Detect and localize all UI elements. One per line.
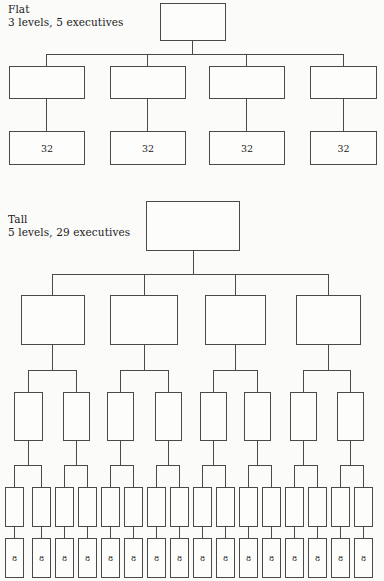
tall-connector-vertical-35 xyxy=(225,465,226,487)
flat-caption: Flat3 levels, 5 executives xyxy=(8,3,123,29)
tall-connector-vertical-25 xyxy=(350,441,351,465)
tall-connector-horizontal-7 xyxy=(64,465,87,466)
tall-connector-vertical-43 xyxy=(41,527,42,538)
flat-caption-title: Flat xyxy=(8,3,123,16)
tall-connector-vertical-27 xyxy=(41,465,42,487)
tall-level1-node1 xyxy=(146,201,240,251)
tall-connector-vertical-32 xyxy=(156,465,157,487)
tall-level3-node4 xyxy=(155,392,182,441)
tall-level4-node16 xyxy=(354,487,373,527)
tall-connector-horizontal-10 xyxy=(202,465,225,466)
tall-level5-node14: 8 xyxy=(308,538,327,578)
tall-level4-node10 xyxy=(216,487,235,527)
tall-connector-vertical-13 xyxy=(168,370,169,392)
tall-connector-vertical-10 xyxy=(28,370,29,392)
flat-connector-vertical-8 xyxy=(246,99,247,131)
flat-connector-vertical-5 xyxy=(343,54,344,66)
tall-level4-node7 xyxy=(147,487,166,527)
tall-connector-vertical-37 xyxy=(271,465,272,487)
tall-level3-node7 xyxy=(290,392,317,441)
tall-connector-vertical-36 xyxy=(248,465,249,487)
tall-connector-vertical-44 xyxy=(64,527,65,538)
tall-connector-vertical-1 xyxy=(193,251,194,274)
flat-level2-node3 xyxy=(209,66,285,99)
flat-connector-vertical-9 xyxy=(343,99,344,131)
tall-caption-title: Tall xyxy=(8,213,130,226)
tall-caption-detail: 5 levels, 29 executives xyxy=(8,226,130,239)
flat-connector-vertical-4 xyxy=(246,54,247,66)
flat-connector-vertical-7 xyxy=(147,99,148,131)
tall-connector-horizontal-8 xyxy=(110,465,133,466)
tall-level5-node12: 8 xyxy=(262,538,281,578)
tall-level5-node1: 8 xyxy=(5,538,24,578)
tall-level5-node15: 8 xyxy=(331,538,350,578)
tall-connector-vertical-16 xyxy=(303,370,304,392)
tall-connector-vertical-28 xyxy=(64,465,65,487)
tall-connector-vertical-11 xyxy=(76,370,77,392)
flat-connector-horizontal-1 xyxy=(46,54,343,55)
flat-caption-detail: 3 levels, 5 executives xyxy=(8,16,123,29)
flat-level3-node4: 32 xyxy=(310,131,377,165)
tall-connector-vertical-50 xyxy=(202,527,203,538)
flat-connector-vertical-2 xyxy=(46,54,47,66)
tall-level4-node13 xyxy=(285,487,304,527)
tall-level5-node2: 8 xyxy=(32,538,51,578)
tall-level4-node8 xyxy=(170,487,189,527)
tall-level3-node2 xyxy=(63,392,90,441)
tall-connector-horizontal-12 xyxy=(294,465,317,466)
tall-connector-vertical-31 xyxy=(133,465,134,487)
tall-connector-vertical-15 xyxy=(257,370,258,392)
flat-level2-node2 xyxy=(110,66,186,99)
tall-connector-vertical-22 xyxy=(213,441,214,465)
tall-connector-vertical-4 xyxy=(235,274,236,295)
tall-connector-vertical-56 xyxy=(340,527,341,538)
tall-level3-node8 xyxy=(337,392,364,441)
tall-connector-vertical-40 xyxy=(340,465,341,487)
tall-level5-node16: 8 xyxy=(354,538,373,578)
flat-connector-vertical-6 xyxy=(46,99,47,131)
tall-connector-vertical-12 xyxy=(120,370,121,392)
tall-level5-node9: 8 xyxy=(193,538,212,578)
tall-level2-node3 xyxy=(205,295,266,345)
tall-level4-node4 xyxy=(78,487,97,527)
tall-level5-node5: 8 xyxy=(101,538,120,578)
tall-connector-vertical-18 xyxy=(28,441,29,465)
tall-connector-horizontal-9 xyxy=(156,465,179,466)
tall-level3-node6 xyxy=(244,392,271,441)
tall-connector-vertical-34 xyxy=(202,465,203,487)
tall-connector-horizontal-2 xyxy=(28,370,76,371)
tall-connector-vertical-24 xyxy=(303,441,304,465)
tall-connector-vertical-51 xyxy=(225,527,226,538)
tall-connector-horizontal-4 xyxy=(213,370,257,371)
tall-level4-node6 xyxy=(124,487,143,527)
tall-connector-horizontal-3 xyxy=(120,370,168,371)
tall-level5-node10: 8 xyxy=(216,538,235,578)
flat-level2-node4 xyxy=(310,66,377,99)
tall-level4-node2 xyxy=(32,487,51,527)
flat-level3-node1: 32 xyxy=(9,131,85,165)
tall-connector-vertical-21 xyxy=(168,441,169,465)
flat-connector-vertical-1 xyxy=(192,41,193,54)
tall-connector-vertical-2 xyxy=(52,274,53,295)
tall-connector-vertical-17 xyxy=(350,370,351,392)
flat-connector-vertical-3 xyxy=(147,54,148,66)
tall-connector-vertical-26 xyxy=(14,465,15,487)
tall-level4-node5 xyxy=(101,487,120,527)
flat-level2-node1 xyxy=(9,66,85,99)
tall-connector-vertical-53 xyxy=(271,527,272,538)
tall-connector-vertical-49 xyxy=(179,527,180,538)
tall-connector-vertical-45 xyxy=(87,527,88,538)
tall-connector-vertical-30 xyxy=(110,465,111,487)
tall-level2-node1 xyxy=(21,295,85,345)
flat-level1-node1 xyxy=(160,3,226,41)
tall-level4-node3 xyxy=(55,487,74,527)
tall-level4-node11 xyxy=(239,487,258,527)
tall-connector-vertical-9 xyxy=(328,345,329,370)
tall-connector-vertical-14 xyxy=(213,370,214,392)
tall-connector-vertical-7 xyxy=(144,345,145,370)
flat-level3-node2: 32 xyxy=(110,131,186,165)
tall-level2-node2 xyxy=(110,295,178,345)
tall-level3-node3 xyxy=(107,392,134,441)
tall-connector-vertical-6 xyxy=(52,345,53,370)
tall-level5-node6: 8 xyxy=(124,538,143,578)
